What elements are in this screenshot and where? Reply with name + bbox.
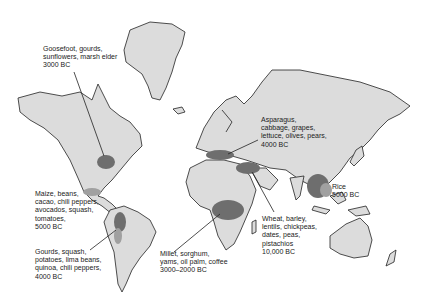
greenland [124,22,185,100]
label-europe: Asparagus,cabbage, grapes,lettuce, olive… [261,116,327,149]
label-north-america: Goosefoot, gourds,sunflowers, marsh elde… [43,45,117,70]
south-america [104,206,156,292]
region-fertile-crescent [236,162,260,174]
label-south-america: Gourds, squash,potatoes, lima beans,quin… [35,248,102,281]
region-south-america [114,212,126,232]
madagascar [252,220,256,234]
australia [330,218,372,258]
label-fertile-crescent: Wheat, barley,lentils, chickpeas,dates, … [262,215,317,256]
india [290,176,304,200]
iceland [173,107,185,114]
region-east-asia-light [320,183,332,197]
leader-africa [174,214,220,252]
new-zealand [386,250,396,266]
region-north-america [97,155,115,169]
region-europe [206,150,234,160]
label-east-asia: Rice5000 BC [332,183,359,199]
label-mesoamerica: Maize, beans,cacao, chili peppers,avocad… [35,190,99,231]
label-africa: Millet, sorghum,yams, oil palm, coffee30… [160,250,228,275]
